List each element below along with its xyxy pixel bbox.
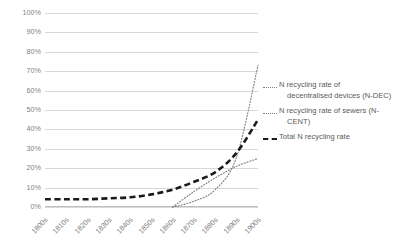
legend-item-label-continued: CENT) — [279, 117, 379, 128]
y-axis-tick-label: 20% — [1, 164, 41, 172]
x-axis-tick-label: 1830s — [93, 215, 113, 235]
x-axis-tick-label: 1800s — [29, 215, 49, 235]
legend-item[interactable]: Total N recycling rate — [263, 132, 414, 145]
x-axis: 1800s1810s1820s1830s1840s1850s1860s1870s… — [45, 208, 258, 252]
series-line — [45, 120, 258, 200]
y-axis-tick-label: 60% — [1, 87, 41, 95]
y-axis-tick-label: 30% — [1, 145, 41, 153]
series-lines — [45, 13, 258, 207]
x-axis-tick-label: 1820s — [72, 215, 92, 235]
y-axis-tick-label: 90% — [1, 28, 41, 36]
legend-item[interactable]: N recycling rate ofdecentralised devices… — [263, 80, 414, 101]
legend-item-label: Total N recycling rate — [278, 132, 350, 143]
x-axis-tick-label: 1860s — [157, 215, 177, 235]
x-axis-tick-label: 1810s — [51, 215, 71, 235]
x-axis-tick-label: 1870s — [179, 215, 199, 235]
x-axis-tick-label: 1850s — [136, 215, 156, 235]
x-axis-tick-label: 1880s — [200, 215, 220, 235]
y-axis: 0%10%20%30%40%50%60%70%80%90%100% — [0, 13, 41, 207]
y-axis-tick-label: 40% — [1, 125, 41, 133]
x-axis-tick-label: 1840s — [115, 215, 135, 235]
x-axis-tick-label: 1900s — [242, 215, 262, 235]
legend-item-label: N recycling rate of sewers (N-CENT) — [278, 106, 379, 127]
y-axis-tick-label: 80% — [1, 48, 41, 56]
plot-area — [45, 13, 258, 207]
chart-legend: N recycling rate ofdecentralised devices… — [263, 80, 414, 150]
y-axis-tick-label: 100% — [1, 9, 41, 17]
legend-line-swatch-icon — [263, 83, 278, 93]
legend-item-label-continued: decentralised devices (N-DEC) — [279, 91, 391, 102]
y-axis-tick-label: 0% — [1, 203, 41, 211]
series-line — [173, 159, 258, 208]
chart-container: 0%10%20%30%40%50%60%70%80%90%100% 1800s1… — [0, 0, 414, 252]
legend-line-swatch-icon — [263, 109, 278, 119]
legend-line-swatch-icon — [263, 135, 278, 145]
y-axis-tick-label: 70% — [1, 67, 41, 75]
legend-item-label: N recycling rate ofdecentralised devices… — [278, 80, 391, 101]
y-axis-tick-label: 10% — [1, 184, 41, 192]
legend-item[interactable]: N recycling rate of sewers (N-CENT) — [263, 106, 414, 127]
y-axis-tick-label: 50% — [1, 106, 41, 114]
x-axis-tick-label: 1890s — [221, 215, 241, 235]
